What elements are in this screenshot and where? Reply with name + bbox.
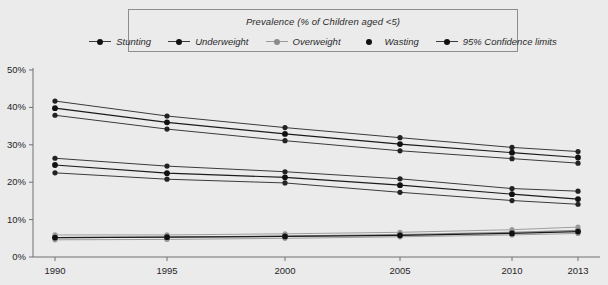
x-axis-tick-label: 2010 [482, 265, 542, 276]
data-point [164, 177, 169, 182]
legend-marker-icon [168, 37, 190, 46]
legend-item-underweight[interactable]: Underweight [168, 36, 248, 47]
chart-root: Prevalence (% of Children aged <5) Stunt… [0, 0, 608, 285]
y-axis-tick-label: 50% [0, 64, 26, 75]
data-point [282, 174, 288, 180]
legend-marker-icon [436, 37, 458, 46]
legend-item-overweight[interactable]: Overweight [266, 36, 341, 47]
data-point [575, 196, 581, 202]
data-point [509, 145, 514, 150]
data-point [164, 126, 169, 131]
legend-title: Prevalence (% of Children aged <5) [129, 16, 517, 27]
data-point [575, 149, 580, 154]
data-point [397, 176, 402, 181]
data-point [575, 155, 581, 161]
data-point [509, 198, 514, 203]
series-line [55, 115, 578, 163]
data-point [397, 232, 403, 238]
data-point [509, 150, 515, 156]
data-point [282, 138, 287, 143]
x-axis-tick-label: 2013 [548, 265, 608, 276]
data-point [397, 141, 403, 147]
y-axis-tick-label: 10% [0, 214, 26, 225]
data-point [282, 180, 287, 185]
data-point [575, 161, 580, 166]
legend-item-95-confidence-limits[interactable]: 95% Confidence limits [436, 36, 557, 47]
legend-item-stunting[interactable]: Stunting [89, 36, 151, 47]
legend-marker-icon [89, 37, 111, 46]
legend-items: StuntingUnderweightOverweightWasting95% … [129, 36, 517, 47]
legend-item-label: Stunting [116, 36, 151, 47]
data-point [397, 135, 402, 140]
legend-item-label: 95% Confidence limits [463, 36, 557, 47]
data-point [397, 182, 403, 188]
data-point [52, 162, 58, 168]
x-axis-tick-label: 2005 [370, 265, 430, 276]
data-point [164, 234, 170, 240]
y-axis-tick-label: 0% [0, 251, 26, 262]
data-point [575, 202, 580, 207]
data-point [52, 98, 57, 103]
data-point [397, 190, 402, 195]
data-point [52, 105, 58, 111]
data-point [282, 131, 288, 137]
legend-item-label: Underweight [195, 36, 248, 47]
legend-item-wasting[interactable]: Wasting [358, 36, 419, 47]
data-point [52, 156, 57, 161]
data-point [397, 148, 402, 153]
chart-legend: Prevalence (% of Children aged <5) Stunt… [128, 9, 518, 52]
x-axis-tick-label: 2000 [255, 265, 315, 276]
data-point [282, 125, 287, 130]
data-point [509, 156, 514, 161]
legend-marker-icon [266, 37, 288, 46]
data-point [52, 113, 57, 118]
series-line [55, 165, 578, 199]
data-point [164, 113, 169, 118]
series-line [55, 158, 578, 191]
data-point [575, 189, 580, 194]
legend-item-label: Wasting [385, 36, 419, 47]
data-point [52, 170, 57, 175]
series-line [55, 173, 578, 204]
series-line [55, 108, 578, 157]
data-point [164, 164, 169, 169]
data-point [509, 191, 515, 197]
x-axis-tick-label: 1995 [137, 265, 197, 276]
legend-item-label: Overweight [293, 36, 341, 47]
data-point [52, 235, 58, 241]
data-point [575, 229, 581, 235]
series-line [55, 101, 578, 151]
data-point [509, 186, 514, 191]
y-axis-tick-label: 40% [0, 101, 26, 112]
y-axis-tick-label: 30% [0, 139, 26, 150]
y-axis-tick-label: 20% [0, 176, 26, 187]
data-point [282, 234, 288, 240]
data-point [164, 119, 170, 125]
x-axis-tick-label: 1990 [25, 265, 85, 276]
data-point [282, 169, 287, 174]
data-point [164, 170, 170, 176]
data-point [509, 231, 515, 237]
legend-marker-icon [358, 37, 380, 46]
